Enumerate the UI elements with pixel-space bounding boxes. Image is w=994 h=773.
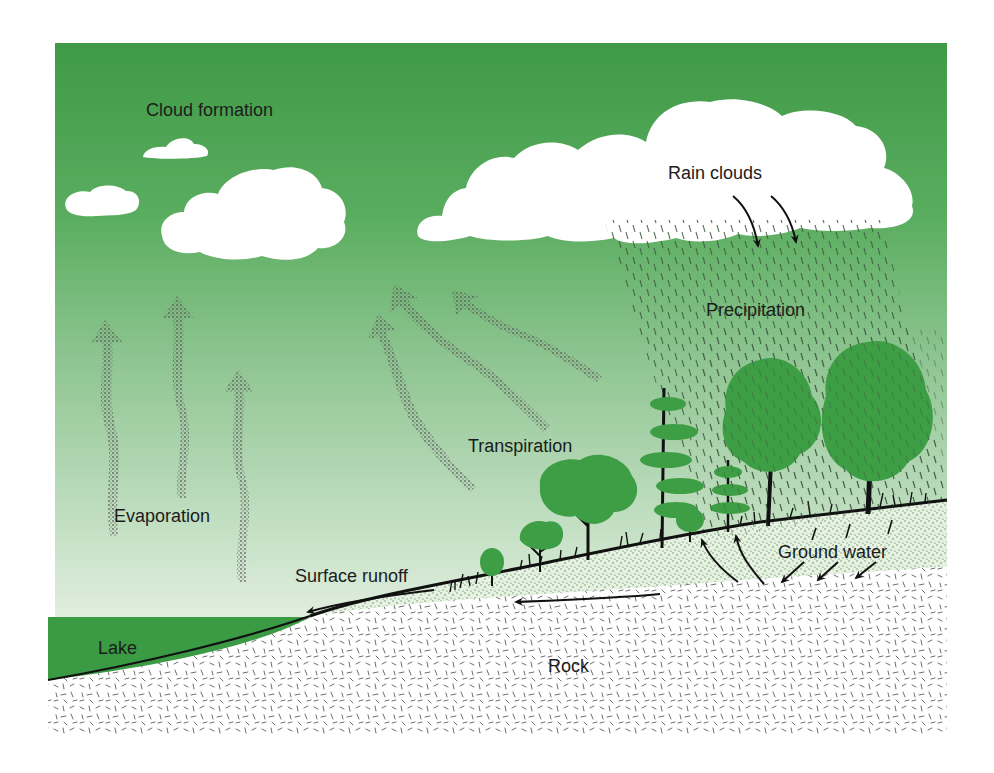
label-lake: Lake [98,638,137,658]
water-cycle-diagram: Cloud formation Rain clouds Precipitatio… [0,0,994,773]
label-cloud-formation: Cloud formation [146,100,273,120]
label-rock: Rock [548,656,590,676]
label-surface-runoff: Surface runoff [295,566,409,586]
label-transpiration: Transpiration [468,436,572,456]
label-precipitation: Precipitation [706,300,805,320]
label-evaporation: Evaporation [114,506,210,526]
label-rain-clouds: Rain clouds [668,163,762,183]
diagram-canvas: Cloud formation Rain clouds Precipitatio… [0,0,994,773]
label-ground-water: Ground water [778,542,887,562]
